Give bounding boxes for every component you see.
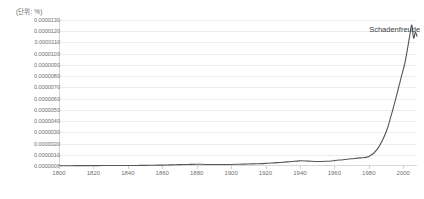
y-tick-mark — [56, 87, 59, 88]
y-tick-mark — [56, 65, 59, 66]
y-tick-mark — [56, 121, 59, 122]
series-line-schadenfreude — [59, 20, 417, 166]
y-tick-mark — [56, 42, 59, 43]
x-tick-label: 1840 — [121, 170, 134, 176]
y-tick-mark — [56, 144, 59, 145]
x-tick-mark — [59, 166, 60, 169]
x-tick-label: 1820 — [87, 170, 100, 176]
x-tick-label: 1880 — [190, 170, 203, 176]
y-tick-mark — [56, 54, 59, 55]
x-tick-label: 1940 — [293, 170, 306, 176]
plot-area — [59, 20, 417, 166]
x-tick-mark — [300, 166, 301, 169]
unit-label: (단위: %) — [16, 6, 42, 16]
x-tick-mark — [128, 166, 129, 169]
x-tick-label: 1860 — [156, 170, 169, 176]
x-tick-label: 1800 — [52, 170, 65, 176]
x-tick-mark — [334, 166, 335, 169]
x-tick-label: 1900 — [224, 170, 237, 176]
x-tick-label: 1920 — [259, 170, 272, 176]
x-tick-label: 1960 — [328, 170, 341, 176]
y-tick-mark — [56, 132, 59, 133]
series-annotation-label: Schadenfreude — [369, 24, 420, 33]
ngram-chart: (단위: %) 0.00001300.00001200.00001100.000… — [0, 0, 424, 199]
x-tick-label: 2000 — [397, 170, 410, 176]
y-tick-mark — [56, 110, 59, 111]
x-tick-mark — [266, 166, 267, 169]
x-tick-label: 1980 — [362, 170, 375, 176]
y-tick-mark — [56, 99, 59, 100]
x-tick-mark — [403, 166, 404, 169]
y-tick-mark — [56, 155, 59, 156]
x-tick-mark — [197, 166, 198, 169]
y-tick-mark — [56, 20, 59, 21]
x-tick-mark — [93, 166, 94, 169]
x-tick-mark — [369, 166, 370, 169]
x-tick-mark — [162, 166, 163, 169]
y-tick-mark — [56, 76, 59, 77]
y-tick-mark — [56, 31, 59, 32]
x-tick-mark — [231, 166, 232, 169]
